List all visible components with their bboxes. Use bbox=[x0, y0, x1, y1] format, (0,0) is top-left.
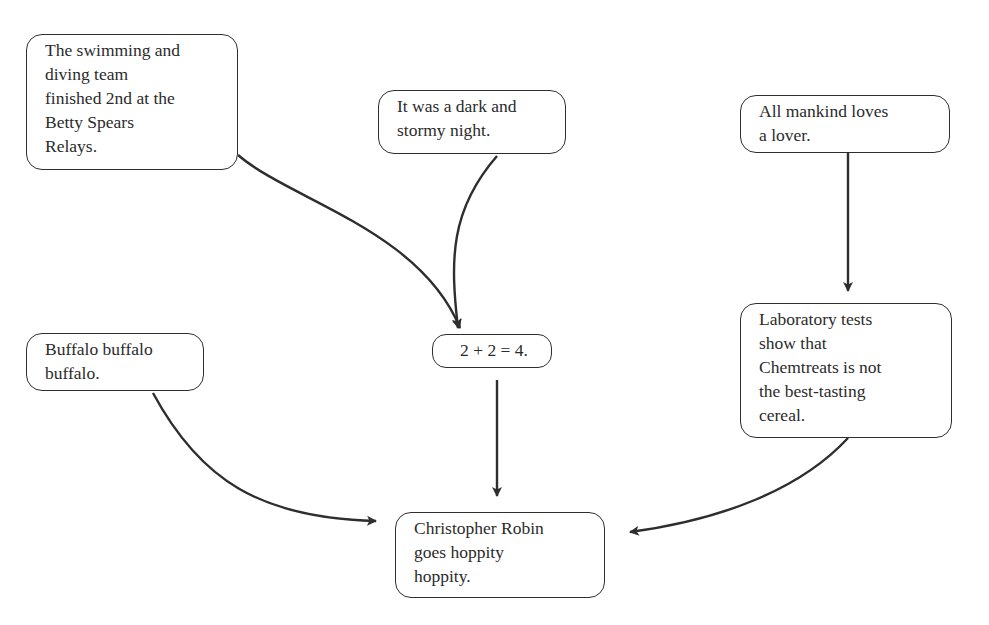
node-swimming: The swimming and diving team finished 2n… bbox=[26, 34, 238, 170]
node-text-line: Christopher Robin bbox=[414, 516, 594, 540]
node-text-line: Betty Spears bbox=[45, 110, 227, 134]
edge-swimming-to-math bbox=[238, 155, 460, 328]
edge-dark-night-to-math bbox=[454, 156, 497, 328]
node-text-line: stormy night. bbox=[397, 118, 555, 142]
node-lab-tests: Laboratory tests show that Chemtreats is… bbox=[740, 303, 952, 438]
node-text-line: finished 2nd at the bbox=[45, 86, 227, 110]
node-text-line: buffalo. bbox=[45, 361, 193, 385]
node-buffalo: Buffalo buffalo buffalo. bbox=[26, 333, 204, 391]
node-text-line: Chemtreats is not bbox=[759, 355, 941, 379]
node-text-line: Relays. bbox=[45, 134, 227, 158]
node-text-line: All mankind loves bbox=[759, 99, 939, 123]
node-mankind: All mankind loves a lover. bbox=[740, 95, 950, 153]
node-math: 2 + 2 = 4. bbox=[432, 334, 552, 368]
node-text-line: The swimming and bbox=[45, 38, 227, 62]
node-text-line: It was a dark and bbox=[397, 94, 555, 118]
node-text-line: Buffalo buffalo bbox=[45, 337, 193, 361]
node-christopher: Christopher Robin goes hoppity hoppity. bbox=[395, 512, 605, 598]
node-text-line: the best-tasting bbox=[759, 379, 941, 403]
node-text-line: show that bbox=[759, 331, 941, 355]
node-dark-night: It was a dark and stormy night. bbox=[378, 90, 566, 154]
edge-lab-tests-to-christopher bbox=[630, 438, 848, 532]
node-text-line: 2 + 2 = 4. bbox=[447, 338, 541, 362]
node-text-line: hoppity. bbox=[414, 564, 594, 588]
node-text-line: diving team bbox=[45, 62, 227, 86]
node-text-line: a lover. bbox=[759, 123, 939, 147]
node-text-line: Laboratory tests bbox=[759, 307, 941, 331]
edge-buffalo-to-christopher bbox=[153, 393, 376, 521]
node-text-line: cereal. bbox=[759, 403, 941, 427]
node-text-line: goes hoppity bbox=[414, 540, 594, 564]
